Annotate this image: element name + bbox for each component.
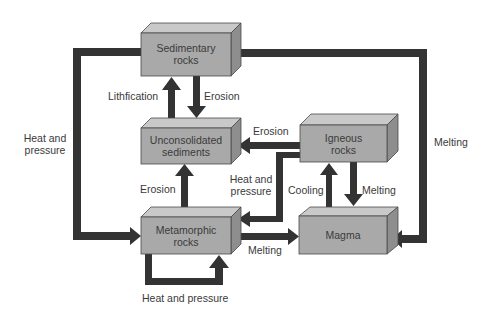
node-unconsolidated-line2: sediments <box>141 146 231 158</box>
node-metamorphic-line2: rocks <box>141 236 231 248</box>
arrow-erosion-ign-to-unc <box>238 137 300 154</box>
node-sedimentary: Sedimentary rocks <box>141 42 231 66</box>
label-heat-pressure-ign-to-met-line2: pressure <box>228 185 274 197</box>
node-unconsolidated-line1: Unconsolidated <box>141 134 231 146</box>
label-melting-ign-to-magma: Melting <box>362 184 396 196</box>
arrow-erosion-met-to-unc <box>175 164 194 207</box>
label-heat-pressure-sed-to-met: Heat and pressure <box>18 132 72 156</box>
arrow-heat-pressure-met-loop <box>145 254 229 285</box>
node-igneous-line2: rocks <box>300 144 387 156</box>
label-cooling: Cooling <box>288 184 324 196</box>
label-erosion-ign-to-unc: Erosion <box>253 125 289 137</box>
label-heat-pressure-sed-to-met-line1: Heat and <box>18 132 72 144</box>
node-sedimentary-line1: Sedimentary <box>141 42 231 54</box>
arrow-melting-ign-to-magma <box>344 162 363 206</box>
label-heat-pressure-met-loop: Heat and pressure <box>142 292 228 304</box>
node-magma: Magma <box>299 229 387 241</box>
node-igneous-line1: Igneous <box>300 132 387 144</box>
arrow-melting-met-to-magma <box>238 228 299 245</box>
label-heat-pressure-ign-to-met-line1: Heat and <box>228 173 274 185</box>
label-heat-pressure-sed-to-met-line2: pressure <box>18 144 72 156</box>
node-unconsolidated: Unconsolidated sediments <box>141 134 231 158</box>
label-erosion-sed-to-unc: Erosion <box>204 90 240 102</box>
node-metamorphic-line1: Metamorphic <box>141 224 231 236</box>
rock-cycle-diagram <box>0 0 482 314</box>
label-melting-met-to-magma: Melting <box>248 244 282 256</box>
label-melting-sed-to-magma: Melting <box>434 136 468 148</box>
node-metamorphic: Metamorphic rocks <box>141 224 231 248</box>
label-erosion-met-to-unc: Erosion <box>140 183 176 195</box>
node-igneous: Igneous rocks <box>300 132 387 156</box>
arrow-lithification <box>162 77 181 119</box>
node-magma-line1: Magma <box>299 229 387 241</box>
arrow-heat-pressure-sed-to-met <box>73 48 141 245</box>
node-sedimentary-line2: rocks <box>141 54 231 66</box>
label-heat-pressure-ign-to-met: Heat and pressure <box>228 173 274 197</box>
label-lithification: Lithfication <box>108 90 158 102</box>
